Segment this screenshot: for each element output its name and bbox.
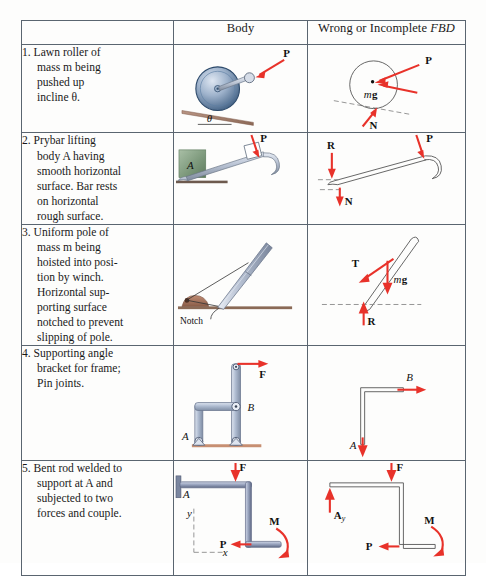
prybar-wrong-fbd-diagram: R N P bbox=[308, 133, 465, 213]
row-1-description-text: 1. Lawn roller of mass m being pushed up… bbox=[22, 45, 173, 105]
row-4-description-text: 4. Supporting angle bracket for frame; P… bbox=[22, 346, 173, 391]
force-f-label: F bbox=[259, 368, 266, 380]
angle-bracket-wrong-fbd-diagram: B A bbox=[308, 346, 465, 459]
rod-vertical bbox=[245, 481, 251, 547]
joint-a-label: A bbox=[181, 431, 189, 443]
tension-t-label: T bbox=[352, 257, 360, 269]
rod-outline bbox=[330, 482, 435, 548]
header-fbd-prefix: Wrong or Incomplete bbox=[318, 21, 430, 35]
header-fbd-acronym: FBD bbox=[430, 21, 455, 35]
block-a-label: A bbox=[186, 159, 194, 171]
force-p-arrow bbox=[255, 60, 284, 78]
row-5-description-text: 5. Bent rod welded to support at A and s… bbox=[22, 461, 173, 521]
row-1-description-cell: 1. Lawn roller of mass m being pushed up… bbox=[22, 45, 174, 133]
header-wrong-fbd: Wrong or Incomplete FBD bbox=[308, 21, 466, 45]
point-a-label: A bbox=[182, 487, 190, 499]
row-5-body-illustration: A y x bbox=[174, 460, 308, 575]
prybar-body-diagram: A bbox=[174, 133, 307, 213]
row-3-description-cell: 3. Uniform pole of mass m being hoisted … bbox=[22, 224, 174, 346]
row-2-body-illustration: A bbox=[174, 133, 308, 224]
header-description bbox=[22, 21, 174, 45]
force-p-arrow bbox=[416, 135, 424, 159]
bent-rod-wrong-fbd-diagram: Ay F P bbox=[308, 461, 465, 575]
row-1-fbd-illustration: P mg N bbox=[308, 45, 466, 133]
force-f-arrow bbox=[387, 463, 397, 482]
row-1-body-illustration: θ bbox=[174, 45, 308, 133]
moment-m-arrow bbox=[431, 526, 444, 556]
table-row: 5. Bent rod welded to support at A and s… bbox=[22, 460, 466, 575]
row-2-fbd-illustration: R N P bbox=[308, 133, 466, 224]
center-of-mass-dot bbox=[371, 80, 374, 83]
force-r-arrow bbox=[328, 153, 336, 179]
moment-m-label: M bbox=[424, 513, 434, 525]
normal-force-n-label: N bbox=[345, 195, 353, 207]
table-row: 1. Lawn roller of mass m being pushed up… bbox=[22, 45, 466, 133]
force-a-arrow bbox=[358, 438, 368, 458]
reaction-ay-label: Ay bbox=[334, 508, 346, 522]
joint-b-label: B bbox=[247, 401, 254, 413]
weight-mg-label: mg bbox=[364, 88, 378, 100]
force-p-label: P bbox=[283, 47, 290, 59]
moment-m-label: M bbox=[269, 515, 279, 527]
lawn-roller-body-diagram: θ bbox=[174, 45, 307, 132]
force-p-label: P bbox=[425, 54, 432, 66]
force-p-arrow bbox=[379, 542, 400, 550]
force-b-label: B bbox=[406, 371, 413, 383]
force-a-label: A bbox=[349, 440, 357, 452]
row-5-description-cell: 5. Bent rod welded to support at A and s… bbox=[22, 460, 174, 575]
angle-bracket-body-diagram: F B A bbox=[174, 346, 307, 459]
bent-rod-body-diagram: A y x bbox=[174, 461, 307, 575]
row-4-body-illustration: F B A bbox=[174, 346, 308, 460]
angle-theta-label: θ bbox=[207, 112, 213, 124]
force-p-label: P bbox=[260, 133, 267, 144]
hoisted-pole-wrong-fbd-diagram: T mg R bbox=[308, 225, 465, 329]
incline-surface bbox=[182, 110, 253, 125]
ground-surface bbox=[178, 306, 292, 309]
notch-leader-line bbox=[211, 308, 219, 319]
force-f-label: F bbox=[396, 461, 403, 473]
table-header-row: Body Wrong or Incomplete FBD bbox=[22, 21, 466, 45]
force-p-label: P bbox=[366, 540, 373, 552]
row-5-fbd-illustration: Ay F P bbox=[308, 460, 466, 575]
roller-wheel bbox=[196, 67, 240, 111]
pin-joint-b bbox=[232, 403, 240, 411]
weight-mg-label: mg bbox=[393, 272, 407, 284]
reaction-r-label: R bbox=[368, 315, 376, 327]
row-3-description-text: 3. Uniform pole of mass m being hoisted … bbox=[22, 225, 173, 346]
table-row: 4. Supporting angle bracket for frame; P… bbox=[22, 346, 466, 460]
normal-force-n-label: N bbox=[370, 119, 378, 131]
force-b-arrow bbox=[397, 386, 426, 394]
prybar-outline bbox=[328, 156, 442, 185]
fbd-comparison-table: Body Wrong or Incomplete FBD 1. Lawn rol… bbox=[21, 20, 466, 576]
force-f-arrow bbox=[238, 360, 269, 368]
hoisted-pole-body-diagram: Notch bbox=[174, 225, 307, 329]
table-row: 2. Prybar lifting body A having smooth h… bbox=[22, 133, 466, 224]
row-2-description-cell: 2. Prybar lifting body A having smooth h… bbox=[22, 133, 174, 224]
force-p-label: P bbox=[220, 538, 227, 550]
ground-surface bbox=[176, 181, 228, 184]
force-r-label: R bbox=[327, 139, 335, 151]
normal-force-n-arrow bbox=[336, 188, 344, 207]
row-4-fbd-illustration: B A bbox=[308, 346, 466, 460]
table-row: 3. Uniform pole of mass m being hoisted … bbox=[22, 224, 466, 346]
row-2-description-text: 2. Prybar lifting body A having smooth h… bbox=[22, 133, 173, 223]
row-4-description-cell: 4. Supporting angle bracket for frame; P… bbox=[22, 346, 174, 460]
force-p-label: P bbox=[426, 133, 433, 144]
horizontal-member bbox=[195, 403, 237, 411]
rod-top-horizontal bbox=[180, 481, 251, 487]
roller-outline bbox=[350, 61, 398, 109]
notch-label: Notch bbox=[180, 316, 203, 326]
row-3-fbd-illustration: T mg R bbox=[308, 224, 466, 346]
axis-y-label: y bbox=[186, 506, 192, 518]
bracket-outline bbox=[361, 388, 404, 445]
row-3-body-illustration: Notch bbox=[174, 224, 308, 346]
force-f-label: F bbox=[240, 461, 247, 473]
header-body: Body bbox=[174, 21, 308, 45]
lawn-roller-wrong-fbd-diagram: P mg N bbox=[308, 45, 465, 132]
